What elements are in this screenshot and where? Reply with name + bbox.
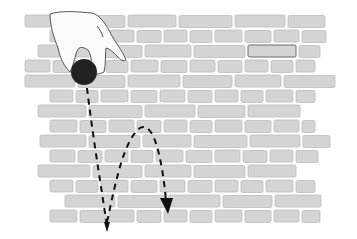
brick [302,121,315,133]
brick [145,105,195,117]
brick [143,135,191,147]
brick [131,60,158,72]
brick [106,61,128,73]
brick [245,60,268,72]
brick [145,165,191,177]
brick [168,195,220,207]
brick [215,210,242,222]
brick [284,76,335,88]
brick [235,75,281,87]
brick [302,31,326,43]
brick [274,210,299,222]
brick [188,91,212,103]
brick [137,31,161,43]
brick [186,151,212,163]
brick [25,75,75,87]
brick [128,15,176,27]
brick [80,211,106,223]
brick [245,121,271,133]
brick [190,31,212,43]
brick [50,180,73,192]
brick [161,61,187,73]
brick [243,151,267,163]
brick [164,30,187,42]
brick [128,75,180,87]
brick [299,46,320,58]
trajectory-drop-arrow [104,222,110,232]
brick [50,90,73,102]
brick [78,151,102,163]
brick [223,196,272,208]
brick [296,60,315,72]
brick [245,211,271,223]
brick [303,136,330,148]
brick [215,150,240,162]
brick [296,181,315,193]
brick [194,166,245,178]
brick [40,135,86,147]
brick [160,90,185,102]
brick [235,15,285,27]
brick [190,60,215,72]
brick [270,150,293,162]
brick [145,45,191,57]
brick [190,211,212,223]
brick [302,211,320,223]
brick [76,181,98,193]
brick [215,30,242,42]
brick [101,90,128,102]
brick [50,150,75,162]
brick [38,165,90,177]
brick [248,165,296,177]
brick [250,135,300,147]
brick [296,91,315,103]
brick [131,151,153,163]
brick [275,195,321,207]
brick [245,31,271,43]
brick [288,16,325,28]
brick [194,136,247,148]
brick [218,61,242,73]
brick [215,90,238,102]
brick [266,180,293,192]
brick [131,91,157,103]
brick [188,181,212,193]
brick [164,120,187,132]
brick [131,181,157,193]
brick [183,76,232,88]
brick [241,91,263,103]
brick [50,120,77,132]
brick [215,120,242,132]
brick [105,150,128,162]
brick [109,120,134,132]
brick [50,210,77,222]
brick [296,151,318,163]
brick [248,105,300,117]
brick [118,196,165,208]
brick [241,181,263,193]
ball [71,59,97,85]
brick [194,46,245,58]
brick [65,195,115,207]
brick [89,106,142,118]
brick [137,211,161,223]
brick [25,60,50,72]
brick [266,90,293,102]
brick [248,45,296,57]
brick [109,210,134,222]
brick [274,30,299,42]
brick [271,61,293,73]
illustration-scene [0,0,357,239]
brick [38,105,86,117]
brick [215,180,238,192]
brick [274,120,299,132]
brick [198,106,245,118]
brick [179,16,232,28]
brick [190,121,212,133]
brick [80,121,106,133]
